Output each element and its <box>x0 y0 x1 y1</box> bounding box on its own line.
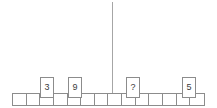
tile-9-label: 9 <box>72 83 77 92</box>
tile-3[interactable]: 3 <box>40 77 54 98</box>
center-pointer-line <box>112 2 113 94</box>
tile-5[interactable]: 5 <box>182 77 196 98</box>
strip-cell-8[interactable] <box>108 94 122 105</box>
strip-cell-2[interactable] <box>27 94 41 105</box>
balance-puzzle-canvas: 39?5 <box>0 0 217 108</box>
strip-cell-4[interactable] <box>54 94 68 105</box>
strip-cell-7[interactable] <box>95 94 109 105</box>
strip-cell-11[interactable] <box>149 94 163 105</box>
tile-3-label: 3 <box>44 83 49 92</box>
tile-5-label: 5 <box>186 83 191 92</box>
strip-cell-1[interactable] <box>13 94 27 105</box>
tile-unknown[interactable]: ? <box>126 77 140 98</box>
tile-9[interactable]: 9 <box>68 77 82 98</box>
tile-unknown-label: ? <box>130 83 135 92</box>
strip-cell-6[interactable] <box>81 94 95 105</box>
strip-cell-12[interactable] <box>163 94 177 105</box>
